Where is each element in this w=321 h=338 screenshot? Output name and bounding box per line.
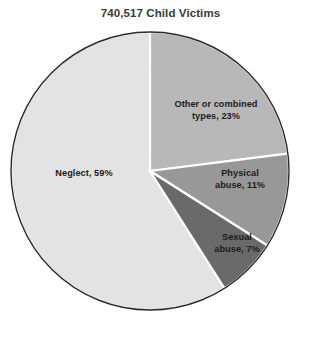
pie-label-sexual-line1: Sexual bbox=[222, 232, 252, 242]
pie-label-physical-line1: Physical bbox=[221, 168, 259, 178]
pie-label-other-or-combined-types: Other or combined types, 23% bbox=[166, 99, 266, 122]
pie-label-physical-line2: abuse, 11% bbox=[215, 180, 265, 190]
pie-chart: 740,517 Child Victims Other or combined … bbox=[0, 0, 321, 338]
pie-label-other-line1: Other or combined bbox=[174, 99, 257, 109]
pie-label-sexual-abuse: Sexual abuse, 7% bbox=[200, 232, 274, 255]
pie-label-sexual-line2: abuse, 7% bbox=[214, 244, 259, 254]
pie-label-other-line2: types, 23% bbox=[192, 111, 240, 121]
pie-label-neglect: Neglect, 59% bbox=[33, 168, 135, 180]
pie-label-physical-abuse: Physical abuse, 11% bbox=[203, 168, 277, 191]
pie-label-neglect-line1: Neglect, 59% bbox=[55, 168, 112, 178]
